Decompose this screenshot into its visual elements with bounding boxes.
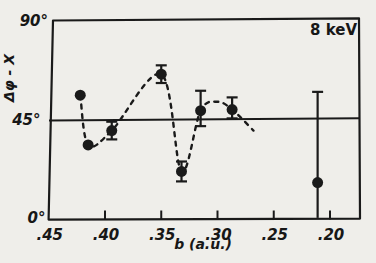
x-tick-label: .25	[261, 226, 288, 244]
data-point	[156, 69, 167, 80]
x-tick-label: .20	[318, 226, 345, 244]
data-point	[75, 90, 86, 101]
chart-canvas: .45.40.35.30.25.200°45°90°Δφ - Xb (a.u.)…	[0, 0, 376, 263]
y-axis-label: Δφ - X	[1, 53, 17, 103]
figure: .45.40.35.30.25.200°45°90°Δφ - Xb (a.u.)…	[0, 0, 376, 263]
energy-label: 8 keV	[310, 21, 357, 39]
x-tick-label: .35	[149, 226, 176, 244]
y-tick-label: 0°	[28, 209, 46, 227]
reference-line-45deg	[49, 118, 360, 120]
x-tick-label: .40	[93, 226, 120, 244]
y-tick-label: 45°	[11, 111, 40, 129]
x-tick-label: .45	[36, 226, 63, 244]
y-tick-label: 90°	[20, 12, 48, 30]
x-axis-label: b (a.u.)	[174, 236, 232, 252]
data-point	[176, 166, 187, 177]
data-point	[83, 139, 94, 150]
data-point	[227, 104, 238, 115]
data-point	[195, 105, 206, 116]
data-point	[312, 177, 323, 188]
data-point	[106, 125, 117, 136]
